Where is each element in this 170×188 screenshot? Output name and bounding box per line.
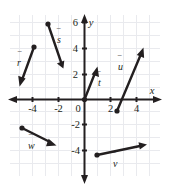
y-tick-label-2: 2 [73, 69, 78, 80]
vector-s-label: s [57, 34, 61, 45]
vector-w-tail-point [19, 125, 24, 130]
y-tick-label--2: -2 [71, 119, 80, 130]
vector-v-label: v [113, 158, 118, 169]
vector-t-label: t [98, 77, 101, 88]
x-axis-label: x [149, 85, 155, 96]
coordinate-plane-svg: -4 -2 0 2 4 6 4 2 -2 -4 x y ‾ r ‾ s [0, 0, 170, 188]
x-tick-label-2: 2 [108, 103, 113, 114]
vector-diagram-figure: -4 -2 0 2 4 6 4 2 -2 -4 x y ‾ r ‾ s [0, 0, 170, 188]
y-axis-label: y [88, 17, 94, 28]
origin-label: 0 [75, 103, 80, 114]
vector-r-tail-point [31, 44, 36, 49]
vector-u-label: u [118, 61, 123, 72]
vector-v-tail-point [94, 152, 99, 157]
y-tick-label-4: 4 [73, 43, 79, 54]
y-tick-label-6: 6 [73, 17, 78, 28]
vector-r-label: r [17, 57, 21, 68]
x-tick-label-4: 4 [134, 103, 140, 114]
y-tick-label--4: -4 [71, 145, 80, 156]
vector-w-label: w [28, 140, 35, 151]
x-tick-label--2: -2 [54, 103, 63, 114]
vector-s-tail-point [45, 21, 50, 26]
vector-u-tail-point [114, 108, 119, 113]
x-tick-label--4: -4 [28, 103, 37, 114]
vector-t-tail-point [82, 97, 87, 102]
